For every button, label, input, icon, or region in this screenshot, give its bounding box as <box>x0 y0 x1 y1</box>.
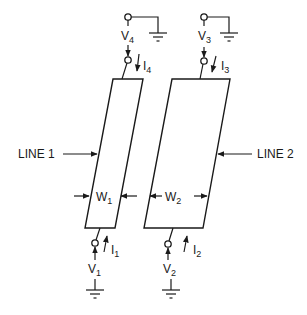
port-4: V4 I4 <box>121 14 167 79</box>
label-v3: V3 <box>198 29 211 45</box>
label-w1: W1 <box>96 190 112 206</box>
coupled-lines-diagram: V4 I4 V3 I3 I1 V1 <box>0 0 307 315</box>
port-3: V3 I3 <box>198 14 238 79</box>
port-1: I1 V1 <box>86 228 119 298</box>
port-2: I2 V2 <box>162 228 201 298</box>
w1-dimension: W1 <box>74 190 137 206</box>
label-i3: I3 <box>221 59 229 75</box>
line2-strip <box>144 79 230 228</box>
ground-icon <box>220 33 238 41</box>
line2-callout: LINE 2 <box>218 147 294 161</box>
terminal-v3-top <box>201 14 207 20</box>
arrow-i3-icon <box>212 56 216 72</box>
label-line2: LINE 2 <box>257 147 294 161</box>
label-i2: I2 <box>193 243 201 259</box>
terminal-line1-bottom <box>92 240 98 246</box>
arrow-i4-icon <box>137 54 139 71</box>
line1-callout: LINE 1 <box>18 147 97 161</box>
label-w2: W2 <box>165 190 181 206</box>
terminal-line1-top <box>125 57 131 63</box>
terminal-line2-top <box>201 58 207 64</box>
terminal-line2-bottom <box>165 241 171 247</box>
ground-icon <box>162 290 180 298</box>
label-line1: LINE 1 <box>18 147 55 161</box>
label-v2: V2 <box>163 262 176 278</box>
ground-icon <box>86 290 104 298</box>
ground-icon <box>149 33 167 41</box>
arrow-i1-icon <box>104 236 107 252</box>
w2-dimension: W2 <box>150 190 207 206</box>
terminal-v4-top <box>125 14 131 20</box>
label-v4: V4 <box>121 29 134 45</box>
arrow-i2-icon <box>184 236 187 252</box>
label-i4: I4 <box>143 59 151 75</box>
label-i1: I1 <box>111 243 119 259</box>
label-v1: V1 <box>88 262 101 278</box>
